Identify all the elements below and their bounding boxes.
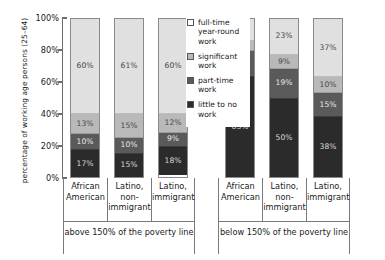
segment-value-label: 60% [165,61,182,69]
segment-value-label: 15% [320,100,337,108]
category-label: Latino, immigrant [151,178,195,221]
y-tick-label: 80% [19,46,59,54]
segment-value-label: 18% [165,157,182,165]
segment-value-label: 10% [320,80,337,88]
bar-segment: 37% [314,19,342,77]
bar-segment: 9% [159,133,187,147]
segment-value-label: 9% [278,57,290,65]
bar-segment: 19% [270,69,298,99]
y-tick-label: 60% [19,78,59,86]
category-label-row: African AmericanLatino, non-immigrantLat… [63,178,385,221]
bar-6: 37%10%15%38% [313,18,343,178]
category-label: Latino, non-immigrant [107,178,151,221]
segment-value-label: 37% [320,43,337,51]
legend-item[interactable]: significant work [187,52,249,71]
segment-value-label: 19% [276,79,293,87]
legend-item[interactable]: part-time work [187,76,249,95]
legend-label: full-time year-round work [198,18,239,46]
segment-value-label: 15% [121,161,138,169]
bar-segment: 60% [159,19,187,114]
legend-item[interactable]: full-time year-round work [187,18,249,46]
bar-segment: 38% [314,117,342,177]
segment-value-label: 13% [77,119,94,127]
bar-segment: 9% [270,55,298,69]
segment-value-label: 61% [121,62,138,70]
bar-segment: 23% [270,19,298,55]
legend-label: little to no work [198,100,237,118]
bar-segment: 60% [71,19,99,114]
bar-segment: 10% [314,77,342,93]
segment-value-label: 17% [77,159,94,167]
bar-segment: 13% [71,114,99,135]
segment-value-label: 9% [167,135,179,143]
y-tick-label: 40% [19,110,59,118]
category-axis-table: African AmericanLatino, non-immigrantLat… [63,178,385,254]
segment-value-label: 10% [121,141,138,149]
stacked-bar-chart: percentage of working age persons (25–64… [0,0,385,260]
category-label: Latino, non-immigrant [262,178,306,221]
bar-segment: 17% [71,150,99,177]
group-label: above 150% of the poverty line [63,221,195,254]
bar-segment: 15% [115,154,143,177]
bar-segment: 15% [314,93,342,117]
bar-5: 23%9%19%50% [269,18,299,178]
segment-value-label: 38% [320,142,337,150]
legend-item[interactable]: little to no work [187,100,249,119]
legend-swatch-icon [187,101,194,108]
chart-legend: full-time year-round worksignificant wor… [186,16,250,127]
segment-value-label: 15% [121,121,138,129]
bar-segment: 15% [115,114,143,137]
legend-label: part-time work [198,76,233,94]
bar-segment: 10% [71,134,99,150]
legend-swatch-icon [187,53,194,60]
legend-swatch-icon [187,19,194,26]
bar-segment: 10% [115,138,143,154]
bar-3: 60%12%9%18% [158,18,188,178]
bar-segment: 12% [159,114,187,133]
bar-1: 60%13%10%17% [70,18,100,178]
y-tick-label: 100% [19,14,59,22]
segment-value-label: 50% [276,133,293,141]
segment-value-label: 23% [276,32,293,40]
segment-value-label: 10% [77,137,94,145]
group-label-row: above 150% of the poverty linebelow 150%… [63,221,385,254]
segment-value-label: 12% [165,118,182,126]
y-axis-title: percentage of working age persons (25–64… [20,11,29,191]
bar-segment: 61% [115,19,143,114]
segment-value-label: 60% [77,61,94,69]
y-tick-label: 0% [19,174,59,182]
legend-swatch-icon [187,77,194,84]
bar-2: 61%15%10%15% [114,18,144,178]
y-tick-label: 20% [19,142,59,150]
bar-segment: 18% [159,147,187,175]
category-label: African American [63,178,107,221]
group-label: below 150% of the poverty line [218,221,350,254]
category-label: Latino, immigrant [306,178,350,221]
category-label: African American [218,178,262,221]
bar-segment: 50% [270,99,298,177]
legend-label: significant work [198,52,237,70]
